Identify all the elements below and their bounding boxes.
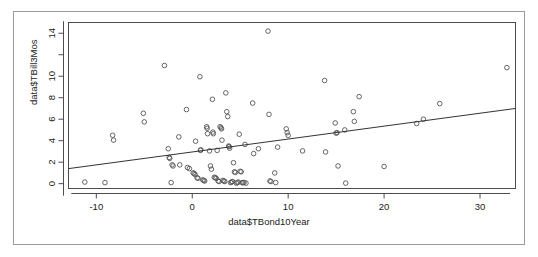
svg-text:30: 30: [475, 201, 486, 212]
svg-text:0: 0: [47, 181, 58, 186]
svg-text:14: 14: [47, 28, 58, 39]
y-axis-label-wrap: data$TBill3Mos: [28, 105, 93, 116]
plot-box: [69, 23, 516, 189]
svg-text:10: 10: [47, 71, 58, 82]
svg-text:0: 0: [190, 201, 195, 212]
svg-text:2: 2: [47, 160, 58, 165]
svg-text:20: 20: [379, 201, 390, 212]
svg-text:8: 8: [47, 95, 58, 100]
data-point-group: [83, 29, 510, 186]
svg-text:4: 4: [47, 138, 58, 143]
regression-line: [69, 108, 516, 168]
svg-text:6: 6: [47, 117, 58, 122]
x-axis-label: data$TBond10Year: [0, 216, 538, 227]
svg-text:-10: -10: [89, 201, 103, 212]
screenshot-root: -100102030 024681014 data$TBond10Year da…: [0, 0, 538, 257]
x-axis: -100102030: [71, 194, 510, 213]
y-axis-label: data$TBill3Mos: [28, 40, 39, 105]
svg-text:10: 10: [283, 201, 294, 212]
